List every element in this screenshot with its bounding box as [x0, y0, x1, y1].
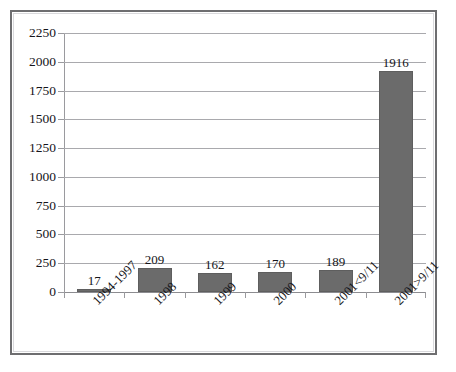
gridline: [64, 234, 426, 235]
y-axis-labels: 0250500750100012501500175020002250: [14, 33, 56, 292]
y-axis-tick-label: 1000: [14, 170, 56, 184]
y-axis-tick-label: 1500: [14, 113, 56, 127]
y-axis-tick-label: 500: [14, 228, 56, 242]
y-axis-tick-label: 1250: [14, 141, 56, 155]
y-axis-tick-label: 250: [14, 256, 56, 270]
bar-value-label: 1916: [356, 56, 436, 69]
plot-area: 172091621701891916: [64, 33, 426, 292]
bar: [379, 71, 413, 292]
gridline: [64, 148, 426, 149]
y-axis-tick-label: 0: [14, 285, 56, 299]
y-axis-tick-label: 2000: [14, 55, 56, 69]
y-axis-tick-label: 1750: [14, 84, 56, 98]
gridline: [64, 91, 426, 92]
x-axis-labels: 1994-19971998199920002001<9/112001>9/11: [64, 298, 426, 356]
gridline: [64, 177, 426, 178]
y-axis-tick-label: 2250: [14, 26, 56, 40]
chart-frame: 0250500750100012501500175020002250 17209…: [10, 10, 437, 355]
y-axis-tick-label: 750: [14, 199, 56, 213]
gridline: [64, 119, 426, 120]
gridline: [64, 33, 426, 34]
chart-inner-border: 0250500750100012501500175020002250 17209…: [13, 13, 434, 352]
gridline: [64, 206, 426, 207]
